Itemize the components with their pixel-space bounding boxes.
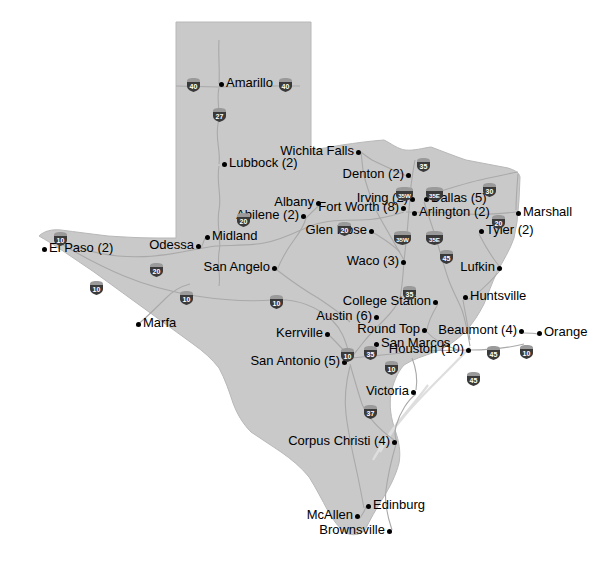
city-label: Orange <box>544 325 587 339</box>
interstate-shield-icon: 10 <box>88 280 105 296</box>
interstate-shield-icon: 10 <box>383 360 400 376</box>
city-label: Beaumont (4) <box>438 323 517 337</box>
interstate-shield-icon: 35E <box>424 230 445 246</box>
interstate-shield-icon: 35 <box>362 345 379 361</box>
city-dot-icon <box>374 315 379 320</box>
shield-number: 10 <box>273 300 281 307</box>
shield-number: 37 <box>367 410 375 417</box>
shield-number: 35E <box>429 192 440 199</box>
city-label: Houston (10) <box>389 342 464 356</box>
city-label: Corpus Christi (4) <box>288 434 390 448</box>
shield-number: 45 <box>443 255 451 262</box>
city-dot-icon <box>411 390 416 395</box>
city-dot-icon <box>205 235 210 240</box>
interstate-shield-icon: 35E <box>424 186 445 202</box>
interstate-shield-icon: 10 <box>52 231 69 247</box>
city-dot-icon <box>433 300 438 305</box>
shield-number: 35 <box>367 351 375 358</box>
shield-number: 40 <box>282 83 290 90</box>
interstate-shield-icon: 20 <box>490 214 507 230</box>
interstate-shield-icon: 45 <box>465 371 482 387</box>
city-dot-icon <box>412 211 417 216</box>
shield-number: 10 <box>183 296 191 303</box>
interstate-shield-icon: 35W <box>392 230 413 246</box>
city-label: Odessa <box>149 238 194 252</box>
city-dot-icon <box>136 322 141 327</box>
city-dot-icon <box>196 244 201 249</box>
city-dot-icon <box>222 162 227 167</box>
shield-number: 20 <box>153 268 161 275</box>
city-label: Marfa <box>143 316 176 330</box>
shield-number: 10 <box>523 350 531 357</box>
shield-number: 45 <box>490 351 498 358</box>
interstate-shield-icon: 45 <box>438 249 455 265</box>
city-label: Marshall <box>523 205 572 219</box>
city-dot-icon <box>366 504 371 509</box>
city-label: Waco (3) <box>347 254 399 268</box>
city-dot-icon <box>272 266 277 271</box>
shield-number: 35 <box>406 291 414 298</box>
shield-number: 10 <box>344 353 352 360</box>
shield-number: 35 <box>420 163 428 170</box>
interstate-shield-icon: 10 <box>268 294 285 310</box>
shield-number: 40 <box>190 83 198 90</box>
city-label: Victoria <box>366 384 409 398</box>
interstate-shield-icon: 20 <box>235 212 252 228</box>
texas-map: AmarilloWichita FallsLubbock (2)Denton (… <box>0 0 608 565</box>
interstate-shield-icon: 35 <box>415 157 432 173</box>
city-label: McAllen <box>307 508 353 522</box>
city-label: Lufkin <box>460 260 495 274</box>
interstate-shield-icon: 40 <box>277 77 294 93</box>
city-label: Denton (2) <box>343 167 404 181</box>
interstate-shield-icon: 10 <box>518 344 535 360</box>
city-dot-icon <box>497 266 502 271</box>
city-dot-icon <box>519 329 524 334</box>
city-label: Lubbock (2) <box>229 156 298 170</box>
city-label: Edinburg <box>373 498 425 512</box>
city-dot-icon <box>463 295 468 300</box>
city-label: Amarillo <box>226 76 273 90</box>
city-dot-icon <box>356 150 361 155</box>
shield-number: 20 <box>495 220 503 227</box>
city-dot-icon <box>387 529 392 534</box>
city-label: Kerrville <box>276 326 323 340</box>
city-dot-icon <box>301 214 306 219</box>
shield-number: 20 <box>341 227 349 234</box>
city-dot-icon <box>219 82 224 87</box>
city-dot-icon <box>316 201 321 206</box>
interstate-shield-icon: 37 <box>362 404 379 420</box>
shield-number: 10 <box>93 286 101 293</box>
city-dot-icon <box>466 348 471 353</box>
city-label: Arlington (2) <box>419 205 490 219</box>
city-dot-icon <box>422 328 427 333</box>
shield-number: 35W <box>398 192 411 199</box>
interstate-shield-icon: 10 <box>178 290 195 306</box>
shield-number: 10 <box>57 237 65 244</box>
city-label: Midland <box>212 229 258 243</box>
city-dot-icon <box>401 206 406 211</box>
city-dot-icon <box>392 440 397 445</box>
interstate-shield-icon: 35 <box>401 285 418 301</box>
shield-number: 35E <box>429 236 440 243</box>
city-dot-icon <box>537 331 542 336</box>
interstate-shield-icon: 45 <box>485 345 502 361</box>
shield-number: 20 <box>240 218 248 225</box>
city-dot-icon <box>355 514 360 519</box>
shield-number: 27 <box>216 113 224 120</box>
city-dot-icon <box>325 332 330 337</box>
shield-number: 45 <box>470 377 478 384</box>
shield-number: 35W <box>396 236 409 243</box>
city-dot-icon <box>479 229 484 234</box>
city-label: Fort Worth (8) <box>318 200 399 214</box>
interstate-shield-icon: 30 <box>481 182 498 198</box>
city-label: San Angelo <box>203 260 270 274</box>
interstate-shield-icon: 27 <box>211 107 228 123</box>
interstate-shield-icon: 35W <box>394 186 415 202</box>
city-label: Brownsville <box>319 523 385 537</box>
city-dot-icon <box>516 211 521 216</box>
interstate-shield-icon: 40 <box>185 77 202 93</box>
city-label: San Antonio (5) <box>250 354 340 368</box>
interstate-shield-icon: 20 <box>336 221 353 237</box>
city-dot-icon <box>401 260 406 265</box>
interstate-shield-icon: 20 <box>148 262 165 278</box>
